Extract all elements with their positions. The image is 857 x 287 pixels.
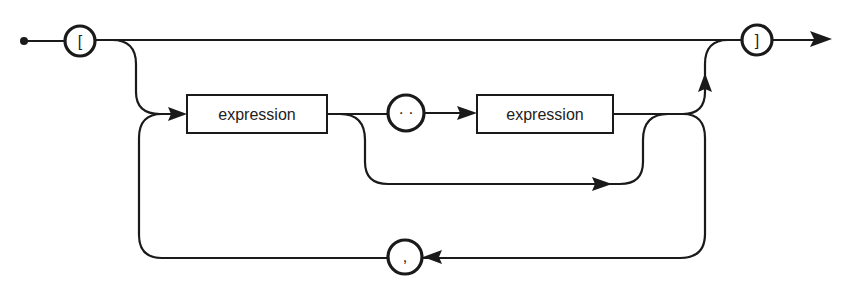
range-label: · · — [398, 104, 413, 121]
start-dot — [20, 37, 28, 45]
comma-label: , — [403, 248, 407, 265]
syntax-diagram: expression · · expression , [ ] — [0, 0, 857, 287]
comma-return-path — [139, 114, 388, 258]
path-up-to-close — [683, 40, 742, 114]
arrow-into-expression-2-icon — [457, 106, 477, 120]
close-bracket-label: ] — [755, 32, 759, 49]
bypass-arrow-icon — [592, 177, 612, 191]
open-bracket-label: [ — [78, 33, 83, 50]
expression-label-1: expression — [218, 106, 295, 123]
loop-back-path — [423, 114, 705, 258]
expression-label-2: expression — [506, 106, 583, 123]
branch-to-expression — [112, 40, 180, 114]
